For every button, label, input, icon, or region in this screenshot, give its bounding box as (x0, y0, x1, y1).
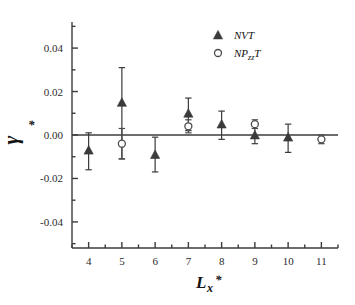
marker-open-circle (185, 123, 192, 130)
y-tick-label: 0.02 (44, 86, 63, 98)
figure-container: -0.04-0.020.000.020.044567891011 NVTNPzz… (0, 0, 355, 305)
scatter-plot: -0.04-0.020.000.020.044567891011 NVTNPzz… (0, 0, 355, 305)
x-tick-label: 5 (119, 255, 125, 267)
marker-open-circle (251, 121, 258, 128)
x-tick-label: 11 (316, 255, 327, 267)
marker-open-circle (318, 136, 325, 143)
x-axis-star: * (215, 272, 222, 287)
x-tick-label: 10 (283, 255, 295, 267)
y-tick-label: 0.00 (44, 129, 64, 141)
x-axis-symbol: L (195, 273, 206, 292)
x-axis-subscript: x (206, 281, 213, 295)
x-tick-label: 8 (219, 255, 225, 267)
x-tick-label: 9 (252, 255, 258, 267)
y-axis-star: * (28, 117, 35, 132)
y-tick-label: -0.04 (40, 216, 63, 228)
x-tick-label: 4 (86, 255, 92, 267)
y-tick-label: -0.02 (40, 172, 63, 184)
marker-open-circle (118, 140, 125, 147)
y-tick-label: 0.04 (44, 42, 64, 54)
x-tick-label: 7 (186, 255, 192, 267)
y-axis-symbol: γ (0, 135, 23, 144)
x-tick-label: 6 (152, 255, 158, 267)
legend-label-nvt: NVT (233, 29, 255, 41)
marker-open-circle (215, 50, 222, 57)
